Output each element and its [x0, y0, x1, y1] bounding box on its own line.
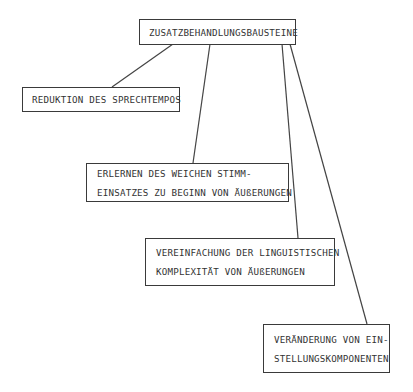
node-vereinfachung-line-1: VEREINFACHUNG DER LINGUISTISCHEN — [156, 243, 334, 262]
node-reduktion: REDUKTION DES SPRECHTEMPOS — [22, 87, 180, 112]
node-vereinfachung-line-2: KOMPLEXITÄT VON ÄUßERUNGEN — [156, 262, 334, 281]
node-veraenderung-line-1: VERÄNDERUNG VON EIN- — [274, 330, 389, 349]
node-vereinfachung: VEREINFACHUNG DER LINGUISTISCHEN KOMPLEX… — [145, 238, 335, 286]
root-node: ZUSATZBEHANDLUNGSBAUSTEINE — [139, 19, 296, 45]
connector-root-to-reduktion — [112, 44, 173, 87]
node-veraenderung: VERÄNDERUNG VON EIN- STELLUNGSKOMPONENTE… — [263, 324, 390, 373]
connector-root-to-erlernen — [193, 44, 210, 163]
root-label: ZUSATZBEHANDLUNGSBAUSTEINE — [149, 23, 295, 42]
node-veraenderung-line-2: STELLUNGSKOMPONENTEN — [274, 349, 389, 368]
node-erlernen-line-1: ERLERNEN DES WEICHEN STIMM- — [97, 164, 288, 183]
node-erlernen: ERLERNEN DES WEICHEN STIMM- EINSATZES ZU… — [86, 163, 289, 202]
diagram-canvas: ZUSATZBEHANDLUNGSBAUSTEINE REDUKTION DES… — [0, 0, 413, 392]
node-erlernen-line-2: EINSATZES ZU BEGINN VON ÄUßERUNGEN — [97, 183, 288, 202]
connector-root-to-vereinfachung — [282, 44, 298, 238]
node-reduktion-line-1: REDUKTION DES SPRECHTEMPOS — [32, 90, 179, 109]
